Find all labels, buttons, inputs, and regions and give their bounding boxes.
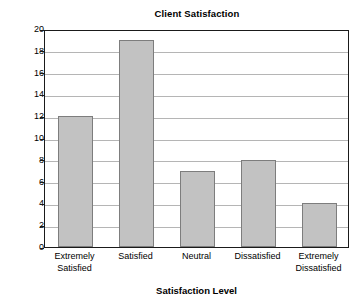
y-tick-label: 12 xyxy=(4,112,44,121)
x-tick-label: Satisfied xyxy=(105,251,166,263)
y-tick-label: 8 xyxy=(4,156,44,165)
y-tick-label: 0 xyxy=(4,243,44,252)
y-tick-label: 20 xyxy=(4,25,44,34)
x-tick-label-line: Extremely xyxy=(288,251,349,263)
y-axis-tick-group: 02468101214161820 xyxy=(0,30,44,248)
y-tick-label: 18 xyxy=(4,47,44,56)
x-tick-label: ExtremelyDissatisfied xyxy=(288,251,349,274)
y-tick-label: 2 xyxy=(4,221,44,230)
bar xyxy=(58,116,93,247)
x-axis-tick-group: ExtremelySatisfiedSatisfiedNeutralDissat… xyxy=(44,251,349,281)
bar xyxy=(180,171,215,247)
bar-chart-figure: Client Satisfaction Number of Clients 02… xyxy=(0,0,362,303)
x-tick-label-line: Neutral xyxy=(166,251,227,263)
y-tick-label: 14 xyxy=(4,90,44,99)
x-tick-label-line: Dissatisfied xyxy=(227,251,288,263)
x-tick-label-line: Dissatisfied xyxy=(288,263,349,275)
x-tick-label: Dissatisfied xyxy=(227,251,288,263)
chart-title: Client Satisfaction xyxy=(44,8,350,19)
y-tick-label: 10 xyxy=(4,134,44,143)
x-tick-label: ExtremelySatisfied xyxy=(44,251,105,274)
y-tick-label: 6 xyxy=(4,178,44,187)
gridline xyxy=(45,52,348,53)
plot-area xyxy=(44,30,349,248)
gridline xyxy=(45,74,348,75)
x-tick-label-line: Satisfied xyxy=(44,263,105,275)
y-tick-label: 16 xyxy=(4,69,44,78)
bar xyxy=(302,203,337,247)
y-tick-label: 4 xyxy=(4,199,44,208)
bar xyxy=(241,160,276,247)
gridline xyxy=(45,96,348,97)
x-tick-label-line: Extremely xyxy=(44,251,105,263)
x-tick-label: Neutral xyxy=(166,251,227,263)
bar xyxy=(119,40,154,247)
x-tick-label-line: Satisfied xyxy=(105,251,166,263)
x-axis-title: Satisfaction Level xyxy=(44,285,349,296)
